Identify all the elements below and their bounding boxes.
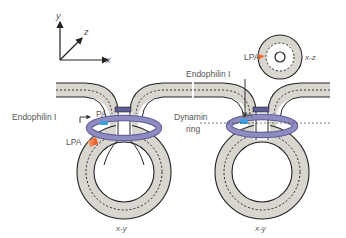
xz-plane-label: x-z (304, 53, 316, 62)
dynamin-label: Dynamin (174, 112, 208, 122)
left-lpa-label: LPA (66, 137, 82, 147)
axis-x-label: x (105, 55, 111, 65)
right-pa-label: PA (242, 110, 253, 120)
left-endophilin-label: Endophilin I (12, 112, 56, 122)
xz-cross-section (258, 35, 302, 79)
left-vesicle (56, 83, 192, 219)
right-lpa-label: LPA (244, 52, 260, 62)
right-vesicle (194, 83, 330, 219)
endocytosis-diagram: y z x Endophilin I PA LPA x-y (0, 0, 346, 238)
left-pa-label: PA (96, 109, 107, 119)
axis-z-label: z (83, 27, 89, 37)
axis-y-label: y (55, 11, 61, 21)
right-endophilin-label: Endophilin I (186, 69, 230, 79)
ring-label: ring (186, 124, 200, 134)
left-plane-label: x-y (115, 224, 128, 233)
left-endophilin-arrow (80, 117, 90, 123)
right-plane-label: x-y (254, 224, 267, 233)
pa-marker-left (100, 121, 108, 125)
